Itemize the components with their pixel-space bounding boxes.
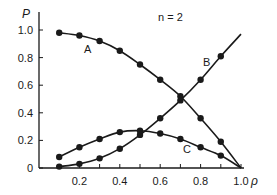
data-point-a: [56, 30, 62, 36]
data-point-a: [76, 32, 82, 38]
data-point-b: [218, 53, 224, 59]
data-point-b: [76, 161, 82, 167]
y-tick-label: 0.4: [18, 107, 33, 119]
data-point-a: [96, 38, 102, 44]
y-tick-label: 0.8: [18, 52, 33, 64]
axes: [39, 12, 244, 168]
x-tick-label: 0.8: [193, 175, 208, 187]
data-point-b: [177, 97, 183, 103]
x-axis-title: ρ: [250, 174, 258, 188]
data-point-c: [197, 144, 203, 150]
data-point-c: [76, 144, 82, 150]
x-tick-label: 0.4: [112, 175, 127, 187]
y-tick-label: 0.6: [18, 79, 33, 91]
data-point-b: [157, 115, 163, 121]
x-tick-label: 1.0: [233, 175, 248, 187]
data-point-c: [177, 136, 183, 142]
curve-label-a: A: [84, 43, 92, 55]
chart-container: 00.20.40.60.81.0 0.20.40.60.81.0 P ρ n =…: [0, 0, 277, 195]
data-point-b: [117, 145, 123, 151]
data-point-c: [137, 128, 143, 134]
data-point-c: [218, 152, 224, 158]
x-tick-label: 0.6: [153, 175, 168, 187]
data-point-c: [96, 136, 102, 142]
data-point-c: [56, 154, 62, 160]
data-point-c: [117, 129, 123, 135]
curve-label-c: C: [183, 143, 191, 155]
data-point-b: [96, 155, 102, 161]
curve-label-b: B: [203, 56, 210, 68]
data-point-a: [218, 139, 224, 145]
y-tick-label: 0: [27, 162, 33, 174]
data-point-a: [197, 115, 203, 121]
y-axis-title: P: [22, 7, 30, 21]
y-tick-label: 1.0: [18, 24, 33, 36]
y-tick-label: 0.2: [18, 134, 33, 146]
data-point-b: [197, 76, 203, 82]
data-point-a: [137, 61, 143, 67]
data-point-a: [117, 48, 123, 54]
n-annotation: n = 2: [158, 11, 183, 23]
data-point-a: [157, 76, 163, 82]
data-point-c: [157, 130, 163, 136]
data-point-b: [56, 163, 62, 169]
x-tick-label: 0.2: [72, 175, 87, 187]
line-chart: 00.20.40.60.81.0 0.20.40.60.81.0 P ρ n =…: [0, 0, 277, 195]
